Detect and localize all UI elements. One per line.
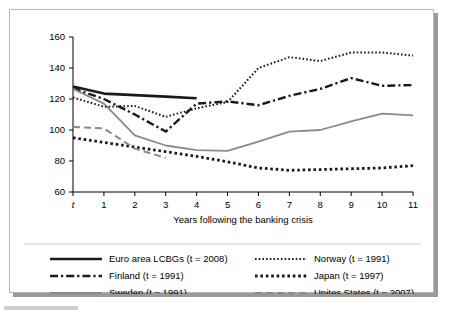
x-tick-label: 11 — [408, 199, 418, 210]
series-group — [73, 53, 413, 171]
x-tick-label: t — [72, 199, 75, 210]
y-tick-label: 60 — [54, 186, 65, 197]
x-tick-label: 3 — [163, 199, 168, 210]
legend-item[interactable]: Euro area LCBGs (t = 2008) — [50, 253, 228, 264]
x-tick-label: 10 — [377, 199, 388, 210]
legend-label: Norway (t = 1991) — [314, 253, 390, 264]
series-line — [73, 127, 166, 158]
x-tick-label: 1 — [101, 199, 106, 210]
series-line — [73, 87, 197, 99]
legend-label: Sweden (t = 1991) — [109, 287, 187, 294]
y-tick-label: 160 — [49, 31, 65, 42]
legend-item[interactable]: Finland (t = 1991) — [50, 270, 184, 281]
page-edge-artifact — [4, 306, 78, 310]
x-axis-title: Years following the banking crisis — [173, 214, 313, 225]
legend-item[interactable]: Sweden (t = 1991) — [50, 287, 187, 294]
chart-area: 6080100120140160 t1234567891011 Years fo… — [10, 10, 435, 294]
legend-label: Euro area LCBGs (t = 2008) — [109, 253, 228, 264]
series-line — [73, 53, 413, 117]
y-tick-label: 100 — [49, 124, 65, 135]
legend-item[interactable]: Unites States (t = 2007) — [255, 287, 414, 294]
legend-label: Finland (t = 1991) — [109, 270, 184, 281]
y-tick-label: 140 — [49, 62, 65, 73]
x-tick-label: 8 — [318, 199, 323, 210]
legend-item[interactable]: Japan (t = 1997) — [255, 270, 383, 281]
x-tick-label: 4 — [194, 199, 199, 210]
x-tick-label: 2 — [132, 199, 137, 210]
y-axis-ticks: 6080100120140160 — [49, 31, 73, 197]
legend-label: Japan (t = 1997) — [314, 270, 383, 281]
series-line — [73, 89, 413, 151]
legend-item[interactable]: Norway (t = 1991) — [255, 253, 390, 264]
x-tick-label: 9 — [349, 199, 354, 210]
y-tick-label: 120 — [49, 93, 65, 104]
line-chart: 6080100120140160 t1234567891011 Years fo… — [10, 10, 435, 294]
chart-legend: Euro area LCBGs (t = 2008)Finland (t = 1… — [24, 244, 421, 294]
figure-panel: 6080100120140160 t1234567891011 Years fo… — [9, 9, 434, 293]
y-tick-label: 80 — [54, 155, 65, 166]
x-tick-label: 6 — [256, 199, 261, 210]
x-tick-label: 5 — [225, 199, 230, 210]
x-axis-ticks: t1234567891011 — [72, 192, 418, 210]
legend-label: Unites States (t = 2007) — [314, 287, 414, 294]
x-tick-label: 7 — [287, 199, 292, 210]
